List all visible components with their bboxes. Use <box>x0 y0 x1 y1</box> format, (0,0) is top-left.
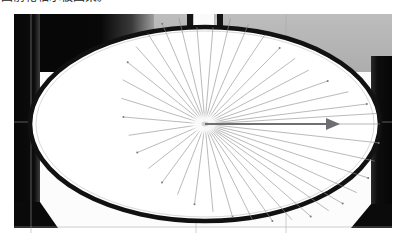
spoke-nipple <box>378 142 380 144</box>
spoke-nipple <box>279 47 281 49</box>
spoke-nipple <box>194 203 196 205</box>
spoke-nipple <box>310 215 312 217</box>
spoke-nipple <box>327 80 329 82</box>
floor-strip <box>14 228 392 233</box>
spoke-nipple <box>232 216 234 218</box>
spoke-nipple <box>271 220 273 222</box>
wheel-photo-svg <box>14 14 392 233</box>
spoke-nipple <box>127 61 129 63</box>
spoke-nipple <box>161 182 163 184</box>
spoke-nipple <box>161 23 163 25</box>
spoke-nipple <box>366 103 368 105</box>
spoke-nipple <box>342 203 344 205</box>
caption-strip: 图前轮轴承被图架。 <box>0 0 409 11</box>
caption-text: 图前轮轴承被图架。 <box>1 0 109 4</box>
spoke-nipple <box>367 177 369 179</box>
photo-figure <box>14 14 392 233</box>
spoke-nipple <box>122 116 124 118</box>
spoke-nipple <box>136 152 138 154</box>
